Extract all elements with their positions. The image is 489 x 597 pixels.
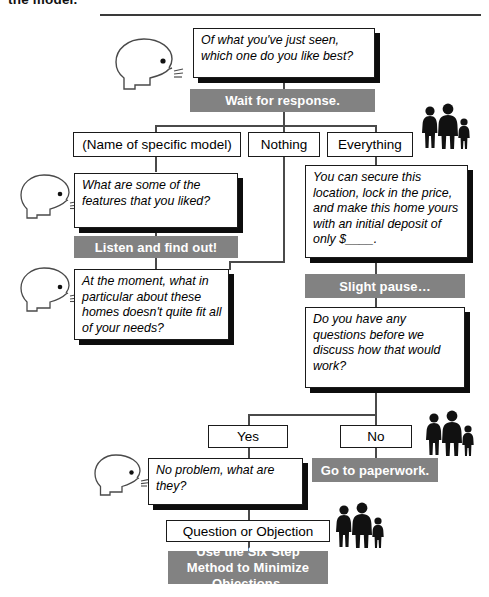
option-specific-model-label: (Name of specific model) xyxy=(82,137,231,152)
box-moment-question: At the moment, what in particular about … xyxy=(74,269,229,340)
option-no-label: No xyxy=(367,429,384,444)
option-everything-label: Everything xyxy=(338,137,402,152)
speaking-head-icon-3 xyxy=(14,265,80,315)
connector-wait-down xyxy=(283,112,285,126)
connector-split-horizontal xyxy=(155,125,376,127)
connector-no-to-paperwork xyxy=(375,447,377,458)
moment-question-text: At the moment, what in particular about … xyxy=(82,274,222,336)
speaking-head-icon xyxy=(108,35,186,93)
connector-nothing-left xyxy=(229,261,285,263)
node-question-or-objection[interactable]: Question or Objection xyxy=(166,520,330,542)
connector-pause-to-questions xyxy=(375,298,377,307)
action-six-step-method: Use the Six Step Method to Minimize Obje… xyxy=(168,551,328,584)
action-listen-label: Listen and find out! xyxy=(95,240,218,255)
option-yes[interactable]: Yes xyxy=(208,425,288,448)
page-heading-fragment: the model. xyxy=(8,0,78,7)
action-listen-and-find-out: Listen and find out! xyxy=(74,236,238,258)
speaking-head-icon-4 xyxy=(88,452,150,500)
action-six-step-label: Use the Six Step Method to Minimize Obje… xyxy=(172,544,324,592)
features-question-text: What are some of the features that you l… xyxy=(82,178,231,209)
action-wait-for-response: Wait for response. xyxy=(190,89,375,112)
box-opening-question: Of what you've just seen, which one do y… xyxy=(193,28,375,78)
secure-location-text: You can secure this location, lock in th… xyxy=(313,170,461,248)
question-or-objection-label: Question or Objection xyxy=(183,524,314,539)
connector-nothing-into-moment xyxy=(229,261,231,270)
connector-questions-down xyxy=(375,388,377,415)
action-slight-pause: Slight pause… xyxy=(305,274,465,298)
box-secure-location-statement: You can secure this location, lock in th… xyxy=(305,165,468,258)
action-pause-label: Slight pause… xyxy=(339,279,431,294)
action-paperwork-label: Go to paperwork. xyxy=(321,463,430,478)
option-nothing[interactable]: Nothing xyxy=(248,132,320,157)
horizontal-rule xyxy=(100,14,481,16)
family-silhouette-icon-3 xyxy=(332,502,388,550)
family-silhouette-icon-2 xyxy=(422,410,478,458)
option-no[interactable]: No xyxy=(340,425,412,448)
opening-question-text: Of what you've just seen, which one do y… xyxy=(201,33,368,64)
box-features-question: What are some of the features that you l… xyxy=(74,173,238,228)
flowchart-page: the model. xyxy=(0,0,489,597)
connector-nothing-down xyxy=(283,157,285,262)
option-yes-label: Yes xyxy=(237,429,259,444)
connector-everything-to-secure xyxy=(375,157,377,165)
connector-listen-to-moment xyxy=(155,258,157,269)
connector-yesno-horizontal xyxy=(248,414,376,416)
connector-yes-to-noproblem xyxy=(248,447,250,458)
option-specific-model[interactable]: (Name of specific model) xyxy=(73,132,241,157)
connector-model-to-features xyxy=(155,157,157,172)
option-nothing-label: Nothing xyxy=(261,137,308,152)
any-questions-text: Do you have any questions before we disc… xyxy=(313,312,458,374)
box-no-problem-question: No problem, what are they? xyxy=(148,458,303,505)
connector-secure-to-pause xyxy=(375,258,377,274)
box-any-questions: Do you have any questions before we disc… xyxy=(305,307,465,388)
speaking-head-icon-2 xyxy=(14,172,80,222)
no-problem-text: No problem, what are they? xyxy=(156,463,296,494)
family-silhouette-icon xyxy=(418,103,474,151)
action-wait-label: Wait for response. xyxy=(225,93,340,108)
connector-noproblem-to-objection xyxy=(248,505,250,520)
action-go-to-paperwork: Go to paperwork. xyxy=(312,458,438,482)
option-everything[interactable]: Everything xyxy=(327,132,413,157)
